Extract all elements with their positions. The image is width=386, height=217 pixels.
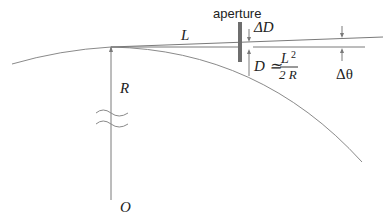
delta-theta-arrowhead-up — [340, 48, 344, 53]
break-mark-lower — [96, 121, 128, 127]
fraction-exponent: 2 — [291, 49, 296, 60]
delta-d-label: ΔD — [253, 19, 274, 35]
delta-theta-arrowhead-down — [340, 33, 344, 38]
delta-theta-label: Δθ — [336, 66, 353, 82]
radius-label: R — [119, 80, 129, 96]
fraction-numerator: L — [280, 51, 289, 66]
origin-label: O — [120, 199, 131, 215]
break-mark-upper — [96, 110, 128, 116]
d-arrowhead-up — [247, 49, 251, 54]
aperture-plate — [238, 22, 242, 62]
tangent-line — [111, 37, 383, 47]
length-label: L — [180, 27, 189, 43]
curvature-arc — [12, 47, 362, 162]
fraction-denominator: 2 R — [279, 67, 297, 82]
delta-d-arrowhead-down — [247, 37, 251, 42]
d-approx-label: D ≃ — [253, 58, 282, 74]
curvature-diagram: aperture L R O ΔD Δθ D ≃ L 2 2 R — [0, 0, 386, 217]
